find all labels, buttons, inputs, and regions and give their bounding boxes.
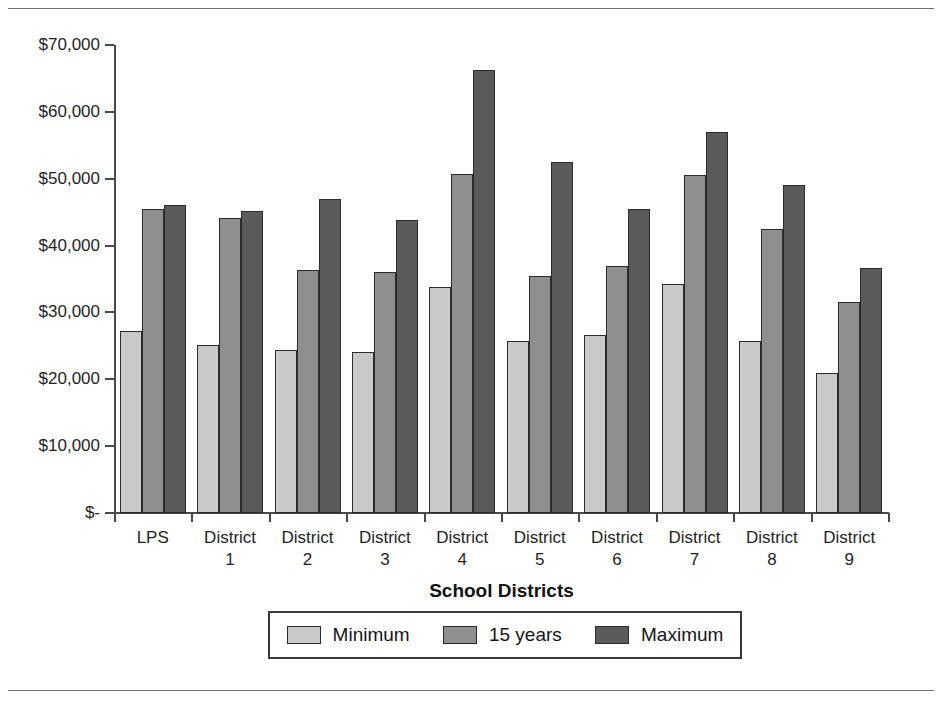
x-axis-category-line: 3 xyxy=(346,549,423,571)
bar-maximum-district-1 xyxy=(241,211,263,513)
x-axis-category-line: 9 xyxy=(811,549,888,571)
bar-maximum-district-2 xyxy=(319,199,341,513)
x-axis-category-line: District xyxy=(811,527,888,549)
y-axis-tick-label: $50,000 xyxy=(0,170,100,187)
x-axis-category-line: 7 xyxy=(656,549,733,571)
legend-swatch-icon xyxy=(287,626,321,644)
bar-minimum-lps xyxy=(120,331,142,513)
grouped-bar-chart: $-$10,000$20,000$30,000$40,000$50,000$60… xyxy=(0,0,942,701)
legend-item-15-years[interactable]: 15 years xyxy=(443,624,562,646)
x-axis-category-label: District7 xyxy=(656,527,733,571)
bar-minimum-district-5 xyxy=(507,341,529,513)
y-axis-tick xyxy=(105,245,114,247)
bar-15-years-district-2 xyxy=(297,270,319,513)
x-axis-category-line xyxy=(114,549,191,571)
x-axis-category-line: District xyxy=(346,527,423,549)
legend-label: 15 years xyxy=(489,624,562,646)
x-axis-category-line: District xyxy=(501,527,578,549)
legend-item-minimum[interactable]: Minimum xyxy=(287,624,410,646)
y-axis-tick-label: $10,000 xyxy=(0,437,100,454)
bar-maximum-district-9 xyxy=(860,268,882,513)
x-axis-category-line: District xyxy=(191,527,268,549)
y-axis-tick xyxy=(105,512,114,514)
x-axis-category-label: LPS xyxy=(114,527,191,571)
bar-15-years-district-1 xyxy=(219,218,241,514)
bar-maximum-district-5 xyxy=(551,162,573,513)
x-axis-category-label: District4 xyxy=(424,527,501,571)
x-axis-tick xyxy=(114,513,116,522)
bar-15-years-lps xyxy=(142,209,164,513)
x-axis-tick xyxy=(733,513,735,522)
x-axis-tick xyxy=(424,513,426,522)
bar-maximum-district-7 xyxy=(706,132,728,513)
x-axis-category-label: District2 xyxy=(269,527,346,571)
x-axis-tick xyxy=(269,513,271,522)
x-axis-category-line: District xyxy=(269,527,346,549)
bar-15-years-district-8 xyxy=(761,229,783,513)
bar-maximum-district-3 xyxy=(396,220,418,513)
y-axis-tick xyxy=(105,44,114,46)
legend-label: Maximum xyxy=(641,624,723,646)
y-axis-tick xyxy=(105,378,114,380)
bar-maximum-district-6 xyxy=(628,209,650,513)
x-axis-category-line: 4 xyxy=(424,549,501,571)
bar-minimum-district-3 xyxy=(352,352,374,513)
bar-15-years-district-5 xyxy=(529,276,551,513)
x-axis-category-line: 1 xyxy=(191,549,268,571)
y-axis-tick-label: $60,000 xyxy=(0,103,100,120)
x-axis-category-label: District1 xyxy=(191,527,268,571)
bar-15-years-district-7 xyxy=(684,175,706,513)
legend-item-maximum[interactable]: Maximum xyxy=(595,624,723,646)
x-axis-category-line: District xyxy=(578,527,655,549)
y-axis-tick-label: $70,000 xyxy=(0,36,100,53)
bar-minimum-district-9 xyxy=(816,373,838,513)
y-axis-tick xyxy=(105,178,114,180)
y-axis-tick xyxy=(105,311,114,313)
x-axis-category-label: District6 xyxy=(578,527,655,571)
bar-minimum-district-2 xyxy=(275,350,297,513)
x-axis-category-line: District xyxy=(656,527,733,549)
bar-minimum-district-8 xyxy=(739,341,761,513)
x-axis-tick xyxy=(888,513,890,522)
bar-15-years-district-4 xyxy=(451,174,473,513)
x-axis-tick xyxy=(656,513,658,522)
legend-label: Minimum xyxy=(333,624,410,646)
x-axis-category-line: 5 xyxy=(501,549,578,571)
chart-legend: Minimum15 yearsMaximum xyxy=(268,611,742,659)
x-axis-category-line: 2 xyxy=(269,549,346,571)
x-axis-tick xyxy=(191,513,193,522)
x-axis-category-label: District8 xyxy=(733,527,810,571)
x-axis-category-line: 6 xyxy=(578,549,655,571)
x-axis-tick xyxy=(346,513,348,522)
y-axis-tick-label: $40,000 xyxy=(0,237,100,254)
x-axis-tick xyxy=(811,513,813,522)
x-axis-category-line: District xyxy=(424,527,501,549)
x-axis-category-line: District xyxy=(733,527,810,549)
bar-15-years-district-9 xyxy=(838,302,860,513)
y-axis-tick xyxy=(105,111,114,113)
x-axis-title: School Districts xyxy=(114,580,889,602)
x-axis-category-label: District9 xyxy=(811,527,888,571)
bar-15-years-district-6 xyxy=(606,266,628,513)
legend-swatch-icon xyxy=(443,626,477,644)
bar-maximum-lps xyxy=(164,205,186,513)
y-axis-tick xyxy=(105,445,114,447)
x-axis-tick xyxy=(578,513,580,522)
legend-swatch-icon xyxy=(595,626,629,644)
x-axis-category-label: District5 xyxy=(501,527,578,571)
x-axis-tick xyxy=(501,513,503,522)
bar-minimum-district-6 xyxy=(584,335,606,514)
x-axis-category-line: LPS xyxy=(114,527,191,549)
bar-minimum-district-7 xyxy=(662,284,684,513)
bar-minimum-district-1 xyxy=(197,345,219,513)
y-axis-tick-label: $- xyxy=(0,504,100,521)
bar-maximum-district-4 xyxy=(473,70,495,513)
plot-area xyxy=(114,45,888,513)
bar-minimum-district-4 xyxy=(429,287,451,513)
y-axis-tick-label: $30,000 xyxy=(0,303,100,320)
bar-15-years-district-3 xyxy=(374,272,396,513)
bar-maximum-district-8 xyxy=(783,185,805,513)
x-axis-category-line: 8 xyxy=(733,549,810,571)
y-axis-tick-label: $20,000 xyxy=(0,370,100,387)
x-axis-category-label: District3 xyxy=(346,527,423,571)
